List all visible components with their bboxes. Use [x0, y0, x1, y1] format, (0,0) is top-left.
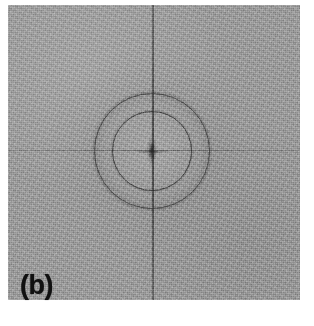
diffraction-pattern-image	[8, 5, 300, 300]
panel-label: (b)	[20, 272, 53, 299]
figure-panel: (b)	[0, 0, 314, 326]
